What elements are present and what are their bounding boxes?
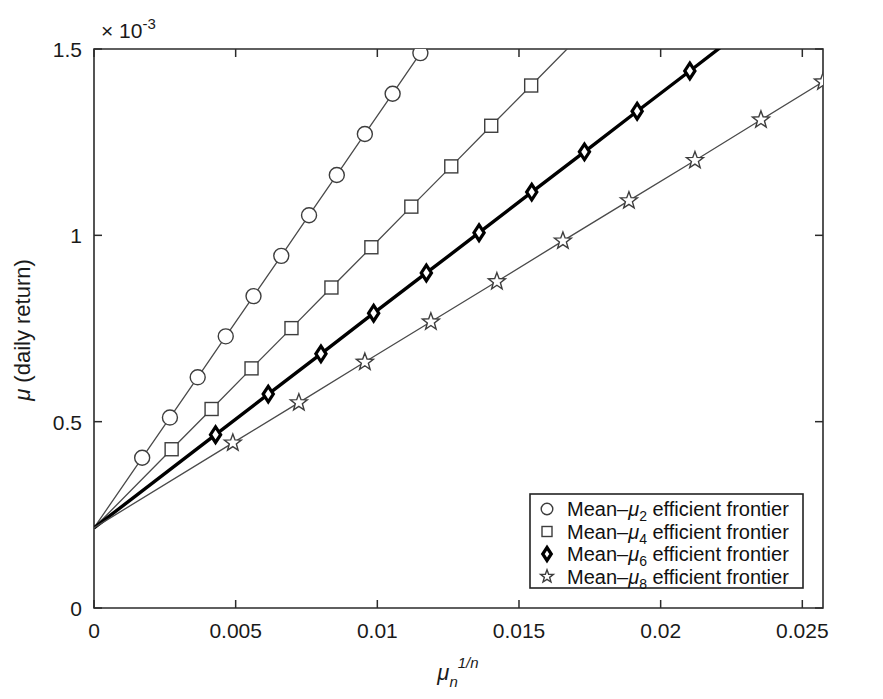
- data-point-marker: [620, 192, 637, 208]
- legend-marker-circle: [541, 503, 553, 515]
- legend-marker-diamond: [543, 548, 552, 561]
- data-point-marker: [488, 273, 505, 289]
- x-tick-label: 0.01: [357, 619, 398, 642]
- x-axis-tick-labels: 00.0050.010.0150.020.025: [88, 619, 828, 642]
- data-point-marker: [218, 329, 233, 344]
- data-point-marker: [245, 362, 258, 375]
- series-square: [94, 5, 611, 528]
- chart-legend: Mean–μ2 efficient frontierMean–μ4 effici…: [530, 494, 803, 592]
- y-axis-tick-labels: 00.511.5: [53, 38, 82, 620]
- data-point-marker: [263, 386, 273, 402]
- chart-figure: 00.0050.010.0150.020.025 00.511.5 × 10-3…: [0, 0, 883, 699]
- series-star: [94, 73, 831, 528]
- data-point-marker: [413, 46, 428, 61]
- series-diamond: [94, 0, 795, 528]
- data-point-marker: [579, 144, 589, 160]
- data-point-marker: [356, 353, 373, 369]
- data-point-marker: [421, 265, 431, 281]
- data-point-marker: [385, 86, 400, 101]
- series-line: [94, 82, 823, 528]
- x-tick-label: 0.015: [493, 619, 546, 642]
- data-point-marker: [445, 160, 458, 173]
- data-point-marker: [554, 232, 571, 248]
- y-tick-label: 0.5: [53, 411, 82, 434]
- x-tick-label: 0.02: [640, 619, 681, 642]
- y-tick-label: 1: [70, 224, 82, 247]
- data-point-marker: [422, 313, 439, 329]
- legend-marker-square: [542, 527, 552, 537]
- efficient-frontier-chart: 00.0050.010.0150.020.025 00.511.5 × 10-3…: [0, 0, 883, 699]
- data-point-marker: [527, 184, 537, 200]
- data-point-marker: [632, 103, 642, 119]
- y-tick-label: 0: [70, 597, 82, 620]
- data-point-marker: [357, 126, 372, 141]
- data-point-marker: [290, 394, 307, 410]
- data-point-marker: [246, 289, 261, 304]
- data-point-marker: [190, 370, 205, 385]
- series-circle: [94, 13, 448, 528]
- data-point-marker: [474, 225, 484, 241]
- data-point-marker: [686, 152, 703, 168]
- data-point-marker: [325, 281, 338, 294]
- y-axis-title: μ (daily return): [10, 259, 35, 402]
- y-axis-multiplier-label: × 10-3: [101, 15, 156, 42]
- x-axis-title: μn1/n: [436, 654, 478, 690]
- data-series-group: [94, 0, 831, 528]
- data-point-marker: [752, 111, 769, 127]
- data-point-marker: [405, 200, 418, 213]
- x-tick-label: 0.025: [776, 619, 829, 642]
- data-point-marker: [224, 434, 241, 450]
- data-point-marker: [162, 410, 177, 425]
- data-point-marker: [329, 167, 344, 182]
- data-point-marker: [485, 119, 498, 132]
- data-point-marker: [210, 427, 220, 443]
- data-point-marker: [165, 443, 178, 456]
- x-tick-label: 0.005: [209, 619, 262, 642]
- data-point-marker: [525, 79, 538, 92]
- data-point-marker: [135, 450, 150, 465]
- data-point-marker: [302, 208, 317, 223]
- data-point-marker: [316, 346, 326, 362]
- data-point-marker: [285, 322, 298, 335]
- data-point-marker: [274, 248, 289, 263]
- data-point-marker: [369, 305, 379, 321]
- x-tick-label: 0: [88, 619, 100, 642]
- data-point-marker: [365, 241, 378, 254]
- data-point-marker: [205, 402, 218, 415]
- y-tick-label: 1.5: [53, 38, 82, 61]
- data-point-marker: [685, 63, 695, 79]
